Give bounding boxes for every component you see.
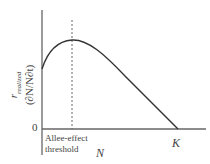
y-axis-symbol: r (7, 94, 19, 98)
y-axis-subscript: realized (15, 72, 23, 94)
growth-rate-curve (42, 40, 178, 129)
allee-threshold-line2: threshold (45, 144, 88, 155)
y-zero-tick-label: 0 (32, 121, 38, 133)
y-axis-expression: (∂N/N∂t) (25, 65, 36, 105)
allee-threshold-line1: Allee-effect (45, 133, 88, 144)
y-axis-label: rrealized (∂N/N∂t) (2, 60, 42, 110)
carrying-capacity-label: K (172, 136, 180, 151)
allee-threshold-label: Allee-effect threshold (45, 133, 88, 155)
x-axis-label: N (96, 146, 104, 161)
